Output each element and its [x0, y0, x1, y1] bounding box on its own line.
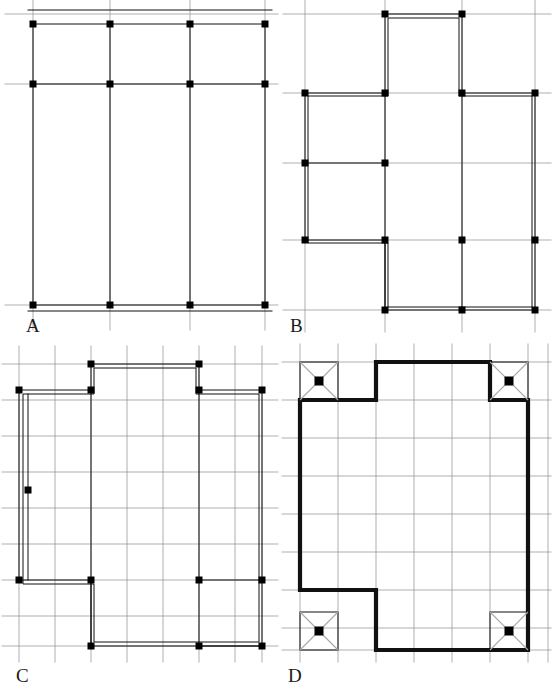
- structural-node: [88, 361, 95, 368]
- structural-node: [382, 11, 389, 18]
- structural-node: [459, 307, 466, 314]
- perimeter-wall: [19, 364, 262, 646]
- structural-node: [30, 81, 37, 88]
- structural-node: [532, 307, 539, 314]
- structural-node: [382, 90, 389, 97]
- panel-a: [0, 0, 280, 340]
- structural-node: [187, 21, 194, 28]
- structural-node: [382, 307, 389, 314]
- structural-node: [302, 90, 309, 97]
- panel-a-regular-grid-frame-canvas: [0, 0, 280, 340]
- structural-node: [187, 302, 194, 309]
- structural-node: [16, 577, 23, 584]
- structural-node: [196, 387, 203, 394]
- structural-node: [196, 577, 203, 584]
- corner-stud-node: [315, 627, 324, 636]
- structural-node: [532, 237, 539, 244]
- structural-node: [30, 302, 37, 309]
- panel-label-c: C: [16, 666, 29, 685]
- perimeter-wall: [305, 14, 535, 310]
- braced-corner-cell-top-left: [300, 362, 338, 400]
- structural-node: [262, 302, 269, 309]
- structural-node: [459, 90, 466, 97]
- structural-node: [196, 643, 203, 650]
- structural-node: [382, 237, 389, 244]
- structural-node: [259, 577, 266, 584]
- structural-node: [459, 237, 466, 244]
- structural-node: [259, 643, 266, 650]
- braced-corner-cell-bottom-right: [490, 612, 528, 650]
- structural-node: [88, 577, 95, 584]
- structural-node: [88, 387, 95, 394]
- corner-stud-node: [505, 377, 514, 386]
- panel-b: [280, 0, 553, 340]
- structural-node: [25, 487, 32, 494]
- structural-node: [107, 21, 114, 28]
- structural-node: [16, 387, 23, 394]
- structural-node: [302, 160, 309, 167]
- structural-node: [88, 643, 95, 650]
- panel-label-a: A: [26, 316, 40, 335]
- panel-label-b: B: [290, 316, 303, 335]
- panel-d-shearwall-frame-canvas: [280, 340, 553, 670]
- panel-label-d: D: [288, 666, 302, 685]
- braced-corner-cell-bottom-left: [300, 612, 338, 650]
- perimeter-rail: [23, 368, 259, 642]
- panel-b-cruciform-frame-canvas: [280, 0, 553, 340]
- panel-c: [0, 340, 280, 670]
- structural-node: [259, 387, 266, 394]
- panel-d: [280, 340, 553, 670]
- structural-node: [107, 302, 114, 309]
- structural-node: [382, 160, 389, 167]
- structural-node: [532, 90, 539, 97]
- corner-stud-node: [315, 377, 324, 386]
- figure-root: A B C D: [0, 0, 553, 690]
- braced-corner-cell-top-right: [490, 362, 528, 400]
- structural-node: [459, 11, 466, 18]
- structural-node: [302, 237, 309, 244]
- panel-c-fine-mesh-frame-canvas: [0, 340, 280, 670]
- structural-node: [196, 361, 203, 368]
- structural-node: [107, 81, 114, 88]
- structural-node: [262, 21, 269, 28]
- structural-node: [30, 21, 37, 28]
- corner-stud-node: [505, 627, 514, 636]
- structural-node: [262, 81, 269, 88]
- structural-node: [187, 81, 194, 88]
